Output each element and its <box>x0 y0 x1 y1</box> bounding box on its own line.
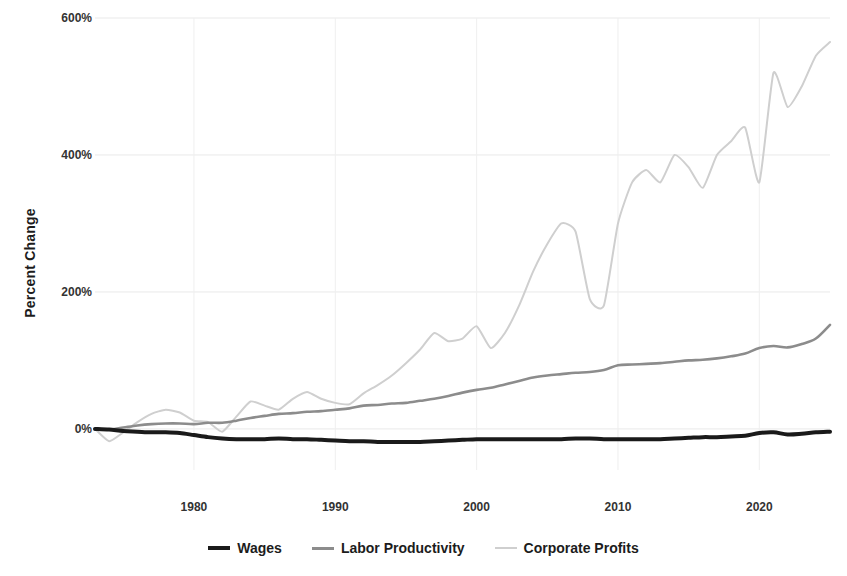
plot-svg <box>95 18 830 470</box>
legend-item[interactable]: Labor Productivity <box>312 540 465 556</box>
legend-label: Labor Productivity <box>341 540 465 556</box>
x-tick-label: 2000 <box>463 500 490 514</box>
vertical-gridlines <box>194 18 759 470</box>
plot-area <box>95 18 830 470</box>
legend-item[interactable]: Corporate Profits <box>495 540 639 556</box>
legend-line-swatch <box>208 546 230 550</box>
chart-legend: WagesLabor ProductivityCorporate Profits <box>0 540 847 556</box>
series-line-labor-productivity <box>95 325 830 430</box>
y-axis-tick-labels: 600%400%200%0% <box>30 0 92 576</box>
series-lines <box>95 42 830 442</box>
series-line-corporate-profits <box>95 42 830 441</box>
x-tick-label: 1990 <box>322 500 349 514</box>
y-tick-label: 400% <box>36 148 92 162</box>
y-tick-label: 600% <box>36 11 92 25</box>
line-chart: Percent Change 600%400%200%0% 1980199020… <box>0 0 847 576</box>
legend-line-swatch <box>312 547 334 550</box>
legend-label: Corporate Profits <box>524 540 639 556</box>
y-tick-label: 200% <box>36 285 92 299</box>
x-tick-label: 1980 <box>181 500 208 514</box>
y-tick-label: 0% <box>36 422 92 436</box>
x-tick-label: 2020 <box>746 500 773 514</box>
legend-label: Wages <box>237 540 282 556</box>
series-line-wages <box>95 429 830 442</box>
x-axis-tick-labels: 19801990200020102020 <box>0 500 847 520</box>
horizontal-gridlines <box>95 18 830 429</box>
legend-item[interactable]: Wages <box>208 540 282 556</box>
x-tick-label: 2010 <box>605 500 632 514</box>
legend-line-swatch <box>495 547 517 549</box>
